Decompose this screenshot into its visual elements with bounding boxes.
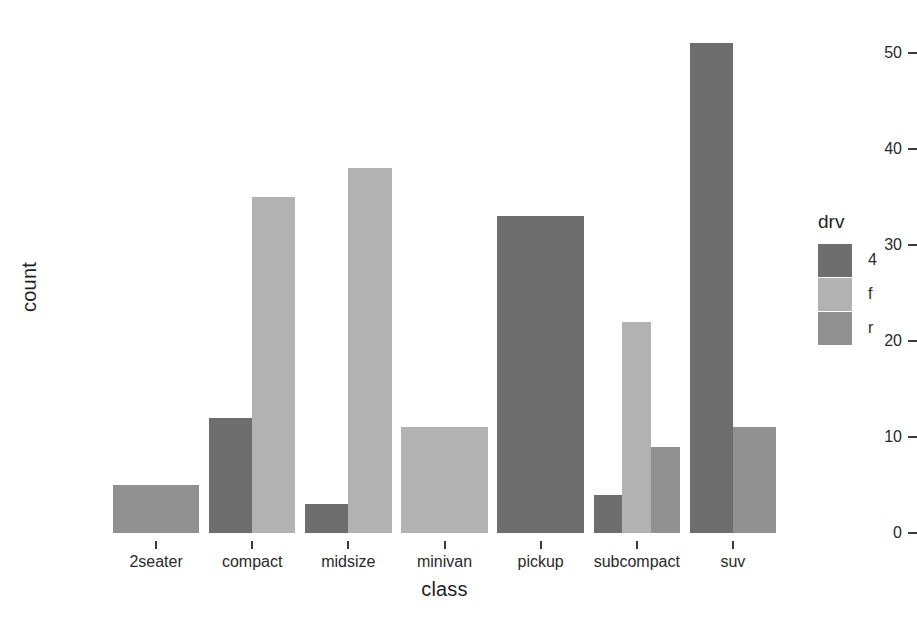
bar — [348, 168, 391, 533]
bar — [622, 322, 651, 533]
y-axis-tick-label: 30 — [884, 236, 908, 254]
bar — [690, 43, 733, 533]
y-axis-tick-mark — [908, 340, 917, 342]
bar — [305, 504, 348, 533]
y-axis-tick-mark — [908, 244, 917, 246]
legend-entry-label: 4 — [868, 252, 877, 268]
legend-swatch-icon — [818, 244, 852, 277]
legend-entry-f: f — [818, 277, 877, 311]
legend-entry-4: 4 — [818, 243, 877, 277]
legend-entry-label: r — [868, 320, 873, 336]
y-axis-tick-mark — [908, 148, 917, 150]
bar — [594, 495, 623, 533]
y-axis-tick-mark — [908, 52, 917, 54]
legend-swatch-icon — [818, 278, 852, 311]
bar — [497, 216, 584, 533]
y-axis-tick-mark — [908, 436, 917, 438]
legend-entries: 4fr — [818, 243, 877, 345]
bar — [252, 197, 295, 533]
x-axis-tick-mark — [155, 541, 157, 549]
x-axis-tick-mark — [636, 541, 638, 549]
y-axis-tick-label: 10 — [884, 428, 908, 446]
bar-chart: count 01020304050 2seatercompactmidsizem… — [0, 0, 917, 638]
legend: drv 4fr — [818, 212, 877, 345]
x-axis-tick-mark — [347, 541, 349, 549]
legend-entry-label: f — [868, 286, 872, 302]
bar — [651, 447, 680, 533]
bar — [733, 427, 776, 533]
x-axis-tick-mark — [732, 541, 734, 549]
bar — [113, 485, 200, 533]
x-axis-title: class — [108, 578, 781, 601]
y-axis-tick: 0 — [815, 524, 917, 542]
bar — [401, 427, 488, 533]
x-axis-tick-mark — [251, 541, 253, 549]
y-axis-tick-label: 50 — [884, 44, 908, 62]
y-axis-tick-label: 20 — [884, 332, 908, 350]
legend-title: drv — [818, 212, 877, 232]
plot-panel — [108, 24, 781, 533]
y-axis-title: count — [14, 41, 44, 533]
y-axis-tick-label: 40 — [884, 140, 908, 158]
x-axis-tick-label: suv — [637, 553, 829, 571]
legend-swatch-icon — [818, 312, 852, 345]
y-axis-tick: 10 — [815, 428, 917, 446]
legend-entry-r: r — [818, 311, 877, 345]
y-axis-tick: 40 — [815, 140, 917, 158]
x-axis-tick-mark — [444, 541, 446, 549]
y-axis-tick-label: 0 — [893, 524, 908, 542]
bar — [209, 418, 252, 533]
y-axis-tick-mark — [908, 532, 917, 534]
y-axis-tick: 50 — [815, 44, 917, 62]
x-axis-tick-mark — [540, 541, 542, 549]
